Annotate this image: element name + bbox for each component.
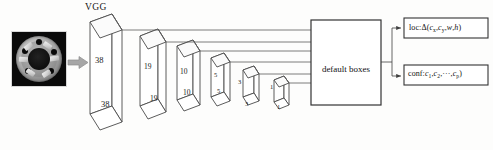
fm-5-bottom-label: 5 (217, 88, 220, 95)
fm-3-top-label: 3 (238, 79, 241, 86)
fm-3-bottom-label: 3 (245, 101, 248, 108)
conf-output-label: conf:c1,c2,···,cp) (408, 69, 462, 78)
loc-output-label: loc:Δ(cx,cy,w,h) (409, 23, 461, 32)
connector-3 (254, 66, 311, 74)
fm-19-bottom-label: 19 (150, 95, 158, 103)
conf-suffix: ) (459, 69, 462, 78)
fm-19-top-label: 19 (144, 63, 152, 71)
default-boxes-block (311, 20, 381, 105)
fm-10-bottom-label: 10 (183, 89, 191, 97)
output-connectors (381, 28, 401, 76)
fm-1-bottom-label: 1 (277, 104, 280, 111)
default-boxes-label: default boxes (313, 64, 379, 74)
connector-19 (158, 29, 311, 42)
feature-map-38 (90, 14, 122, 130)
feature-map-19 (140, 29, 166, 119)
conf-sub-2: 2 (437, 73, 440, 79)
feature-map-5 (211, 53, 230, 106)
fm-5-top-label: 5 (214, 72, 217, 79)
connector-38 (112, 14, 311, 30)
fm-1-top-label: 1 (270, 84, 273, 91)
loc-prefix: loc:Δ( (409, 23, 429, 32)
connector-1 (284, 76, 311, 83)
loc-suffix: ) (458, 23, 461, 32)
diagram-canvas: VGG 38 38 19 19 10 10 5 5 3 3 1 1 defaul… (0, 0, 493, 150)
loc-sub-1: x (433, 27, 436, 33)
fm-10-top-label: 10 (180, 68, 188, 76)
fm-38-top-label: 38 (95, 56, 104, 65)
input-arrow-icon (68, 57, 88, 69)
loc-term-3: w (447, 23, 452, 32)
loc-sub-2: y (442, 27, 445, 33)
fm-38-bottom-label: 38 (101, 100, 110, 109)
connector-5 (224, 53, 311, 62)
conf-sub-1: 1 (429, 73, 432, 79)
vgg-backbone-label: VGG (85, 2, 107, 12)
conf-ellipsis: ··· (442, 69, 450, 78)
conf-prefix: conf: (408, 69, 425, 78)
conf-sub-3: p (456, 73, 459, 79)
